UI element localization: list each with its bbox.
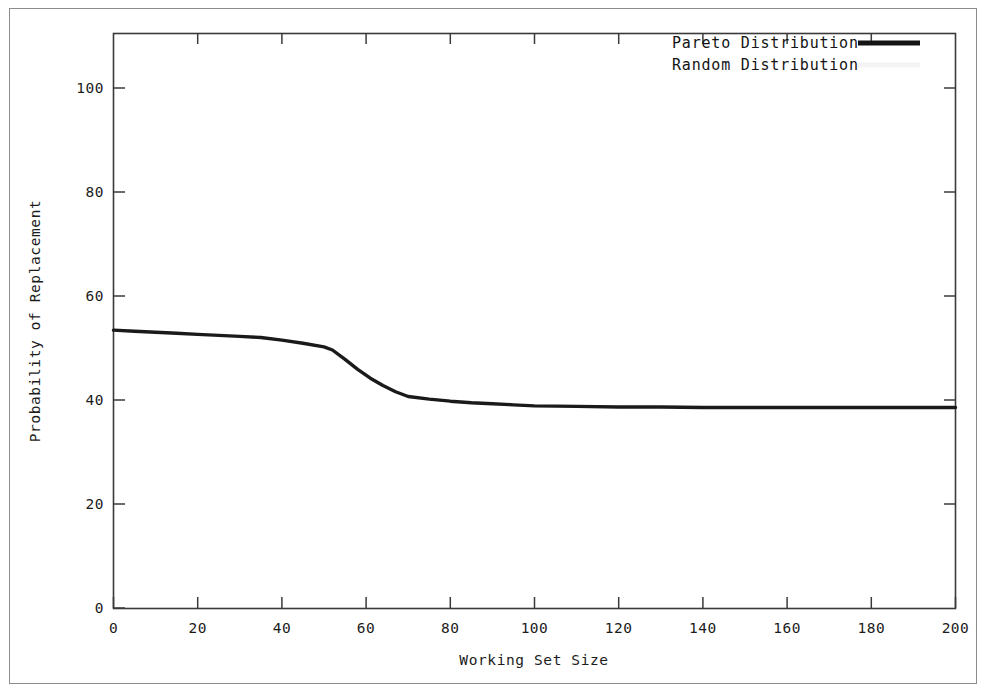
y-tick-label-60: 60 — [86, 288, 104, 304]
chart-legend: Pareto Distribution Random Distribution — [672, 34, 920, 74]
y-tick-label-20: 20 — [86, 496, 104, 512]
x-tick-label-180: 180 — [857, 620, 885, 636]
x-tick-label-20: 20 — [188, 620, 206, 636]
y-axis-ticks — [114, 88, 126, 608]
x-tick-label-0: 0 — [109, 620, 118, 636]
y-tick-label-40: 40 — [86, 392, 104, 408]
series-line-pareto-distribution — [114, 330, 956, 407]
x-tick-label-60: 60 — [357, 620, 375, 636]
x-tick-label-200: 200 — [942, 620, 970, 636]
y-axis-ticks-right — [944, 88, 956, 504]
figure-page: 0 20 40 60 80 100 — [0, 0, 988, 693]
x-tick-label-160: 160 — [773, 620, 801, 636]
x-tick-label-80: 80 — [441, 620, 459, 636]
y-tick-label-0: 0 — [95, 600, 104, 616]
plot-border-rect — [114, 34, 956, 609]
x-axis-ticks — [114, 597, 956, 608]
x-tick-label-140: 140 — [689, 620, 717, 636]
x-axis-title: Working Set Size — [459, 652, 608, 668]
data-series-layer — [114, 330, 956, 407]
y-tick-label-100: 100 — [76, 80, 104, 96]
plot-frame — [114, 34, 956, 609]
x-tick-labels: 0 20 40 60 80 100 120 140 160 180 200 — [109, 620, 969, 636]
plot-canvas: 0 20 40 60 80 100 — [0, 0, 988, 693]
x-tick-label-40: 40 — [273, 620, 291, 636]
y-axis-title: Probability of Replacement — [27, 200, 43, 443]
x-tick-label-100: 100 — [521, 620, 549, 636]
x-tick-label-120: 120 — [605, 620, 633, 636]
legend-label-random: Random Distribution — [672, 56, 859, 74]
chart-figure: 0 20 40 60 80 100 — [0, 0, 988, 693]
legend-label-pareto: Pareto Distribution — [672, 34, 859, 52]
y-tick-labels: 0 20 40 60 80 100 — [76, 80, 104, 616]
y-tick-label-80: 80 — [86, 184, 104, 200]
